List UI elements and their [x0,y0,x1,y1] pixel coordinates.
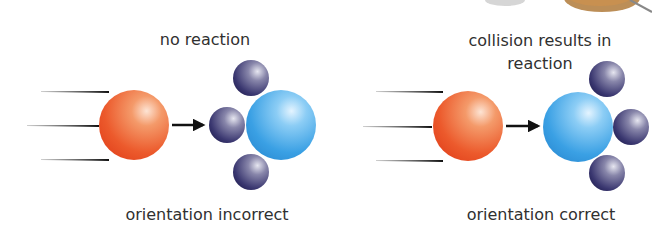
top-right-decoration [485,0,652,12]
right-title-line2: reaction [440,52,640,75]
speed-lines-icon [363,91,443,162]
incoming-molecule [433,91,503,161]
attached-atom-bottom [233,154,269,190]
right-title-line1: collision results in [440,29,640,52]
left-caption: orientation incorrect [97,203,317,226]
attached-atom-bottom [589,155,625,191]
left-title: no reaction [130,28,280,51]
attached-atom-right [613,109,649,145]
central-atom [543,92,613,162]
left-panel-graphic [27,60,316,190]
right-caption: orientation correct [441,203,641,226]
central-atom [246,90,316,160]
right-panel-graphic [363,61,649,191]
attached-atom-top [233,60,269,96]
attached-atom-left [209,107,245,143]
incoming-molecule [99,90,169,160]
speed-lines-icon [27,91,109,161]
